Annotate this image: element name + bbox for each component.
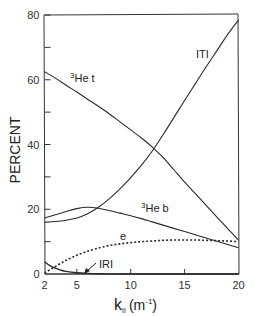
x-tick-label: 5 xyxy=(74,279,80,291)
x-tick-label: 2 xyxy=(41,279,47,291)
line-chart: 02040608025101520 3He t ITI 3He b e IRI … xyxy=(0,0,254,316)
data-curves xyxy=(45,20,239,274)
axis-tick-labels: 02040608025101520 xyxy=(27,9,244,291)
y-tick-label: 80 xyxy=(27,9,39,21)
y-tick-label: 40 xyxy=(27,139,39,151)
x-tick-label: 15 xyxy=(178,279,190,291)
y-tick-label: 60 xyxy=(27,74,39,86)
y-tick-label: 0 xyxy=(33,268,39,280)
x-tick-label: 20 xyxy=(232,279,244,291)
series-label-iri: IRI xyxy=(99,258,113,270)
series-curve-iri xyxy=(45,262,239,274)
right-border xyxy=(238,14,239,274)
series-label-he3b: 3He b xyxy=(141,201,169,214)
series-curve-he-t xyxy=(45,72,239,240)
axis-ticks xyxy=(45,15,185,274)
series-label-iti: ITI xyxy=(196,48,209,60)
y-axis-title: PERCENT xyxy=(7,116,23,183)
x-tick-label: 10 xyxy=(125,279,137,291)
top-border xyxy=(44,14,238,15)
series-curve-e xyxy=(45,240,239,273)
y-tick-label: 20 xyxy=(27,203,39,215)
iri-arrow-icon xyxy=(84,263,96,274)
series-curve-he-b xyxy=(45,207,239,247)
x-axis-title: kII(m-1) xyxy=(114,296,157,314)
plot-frame xyxy=(44,14,239,274)
series-label-e: e xyxy=(120,230,126,242)
series-curve-iti xyxy=(45,20,239,222)
series-label-he3t: 3He t xyxy=(70,71,95,84)
